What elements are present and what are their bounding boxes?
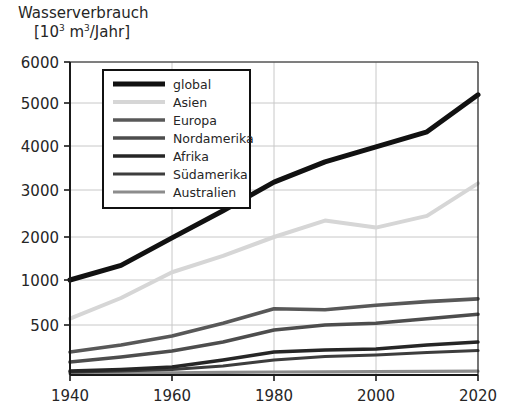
- y-tick-label: 4000: [21, 138, 59, 156]
- legend-label-australien: Australien: [173, 185, 236, 200]
- y-tick-label: 3000: [21, 182, 59, 200]
- legend-label-s-damerika: Südamerika: [173, 167, 248, 182]
- legend-label-asien: Asien: [173, 95, 207, 110]
- x-tick-label: 2000: [357, 387, 395, 405]
- legend-label-nordamerika: Nordamerika: [173, 131, 254, 146]
- chart-svg: 500100020003000400050006000 194019601980…: [0, 0, 506, 417]
- y-tick-label: 500: [30, 317, 59, 335]
- y-tick-label: 6000: [21, 54, 59, 72]
- legend-label-global: global: [173, 77, 211, 92]
- x-tick-label: 1960: [153, 387, 191, 405]
- x-tick-label: 1980: [255, 387, 293, 405]
- x-tick-label: 2020: [459, 387, 497, 405]
- x-tick-label: 1940: [51, 387, 89, 405]
- y-tick-label: 5000: [21, 95, 59, 113]
- legend-label-europa: Europa: [173, 113, 217, 128]
- chart-legend: globalAsienEuropaNordamerikaAfrikaSüdame…: [103, 70, 254, 208]
- legend-label-afrika: Afrika: [173, 149, 209, 164]
- y-tick-label: 2000: [21, 229, 59, 247]
- water-consumption-chart-figure: Wasserverbrauch [103 m3/Jahr] 5001000200…: [0, 0, 506, 417]
- x-axis-tick-labels: 19401960198020002020: [51, 387, 497, 405]
- y-tick-label: 1000: [21, 272, 59, 290]
- y-axis-tick-labels: 500100020003000400050006000: [21, 54, 59, 335]
